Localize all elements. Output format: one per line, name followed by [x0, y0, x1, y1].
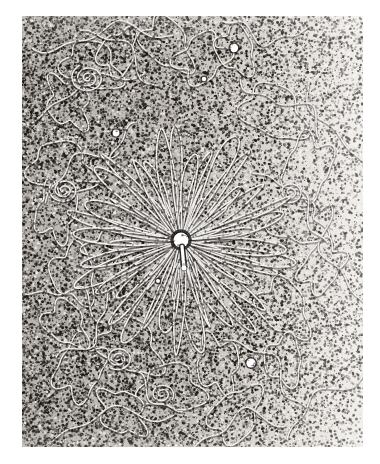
page-root: lysed bacteriophage with released DNA: [0, 0, 380, 464]
electron-micrograph-image: [22, 16, 363, 447]
micrograph-canvas: [22, 16, 363, 447]
